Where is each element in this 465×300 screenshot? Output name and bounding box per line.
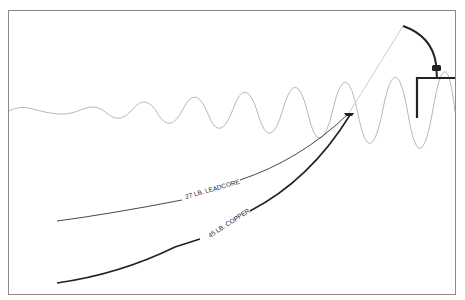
reel-icon <box>432 65 441 71</box>
leadcore-line-upper <box>240 115 347 180</box>
fishing-rod-icon <box>403 26 437 78</box>
copper-line <box>57 239 200 283</box>
leadcore-label: 27 LB. LEADCORE <box>184 178 241 200</box>
leadcore-line <box>57 200 182 221</box>
fishing-diagram: 27 LB. LEADCORE 45 LB. COPPER <box>0 0 465 300</box>
copper-label: 45 LB. COPPER <box>207 207 251 239</box>
tow-line <box>349 26 403 113</box>
boat-icon <box>417 78 455 118</box>
water-surface <box>9 72 455 149</box>
copper-line-upper <box>250 115 350 211</box>
